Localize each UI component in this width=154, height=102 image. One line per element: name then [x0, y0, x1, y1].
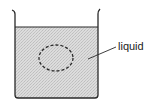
beaker-diagram: liquid [0, 0, 154, 102]
liquid-label: liquid [118, 40, 144, 52]
liquid-fill [15, 27, 98, 98]
